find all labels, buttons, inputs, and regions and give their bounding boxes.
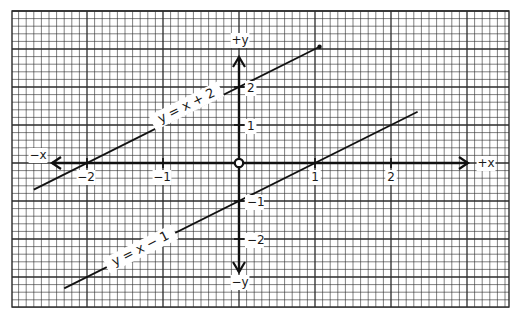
svg-text:2: 2: [387, 170, 395, 184]
x-tick-label: 2: [385, 170, 396, 185]
svg-text:−1: −1: [247, 195, 265, 209]
y-tick-label: −1: [245, 195, 265, 210]
svg-text:−x: −x: [29, 148, 46, 162]
svg-text:−2: −2: [247, 233, 265, 247]
line-endpoint-dot: [317, 45, 321, 49]
svg-text:−2: −2: [77, 170, 95, 184]
svg-text:−y: −y: [231, 275, 248, 289]
svg-text:1: 1: [311, 170, 319, 184]
svg-text:1: 1: [247, 119, 255, 133]
neg-y-label: −y: [231, 275, 250, 290]
y-tick-label: 1: [245, 119, 256, 134]
x-tick-label: 1: [309, 170, 320, 185]
svg-text:+y: +y: [231, 33, 248, 47]
x-tick-label: −2: [77, 170, 96, 185]
svg-text:2: 2: [247, 81, 255, 95]
pos-y-label: +y: [231, 33, 250, 48]
svg-text:+x: +x: [477, 156, 494, 170]
y-tick-label: 2: [245, 81, 256, 96]
svg-text:−1: −1: [153, 170, 171, 184]
x-tick-label: −1: [153, 170, 172, 185]
y-tick-label: −2: [245, 233, 265, 248]
coordinate-graph: −x+x+y−y−2−11221−1−2y = x + 2y = x − 1: [0, 0, 517, 316]
pos-x-label: +x: [477, 156, 496, 171]
origin-marker: [235, 159, 243, 167]
neg-x-label: −x: [29, 148, 48, 163]
